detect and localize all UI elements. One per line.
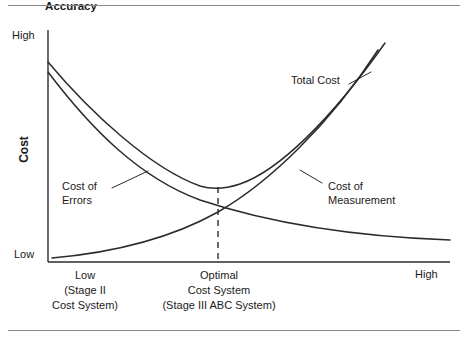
x-axis-high-label: High: [415, 268, 438, 281]
x-tick-low-line1: Low: [25, 268, 145, 283]
y-axis-high-label: High: [12, 29, 35, 42]
cost-of-errors-annotation: Cost of Errors: [62, 179, 97, 207]
cost-of-errors-annotation-line2: Errors: [62, 193, 97, 207]
cost-of-errors-curve: [48, 72, 450, 240]
x-tick-low-line2: (Stage II: [25, 283, 145, 298]
cost-of-errors-leader-line: [112, 171, 148, 188]
y-axis-title: Cost: [18, 120, 31, 180]
cost-of-measurement-annotation-line2: Measurement: [328, 193, 395, 207]
x-tick-optimal-line3: (Stage III ABC System): [148, 298, 290, 313]
total-cost-curve: [48, 43, 385, 188]
x-tick-optimal-line1: Optimal: [148, 268, 290, 283]
chart-figure: High Low Cost Low (Stage II Cost System)…: [0, 0, 468, 344]
cost-of-measurement-annotation-line1: Cost of: [328, 179, 395, 193]
total-cost-annotation: Total Cost: [291, 73, 340, 87]
y-axis-low-label: Low: [14, 248, 34, 261]
x-tick-group-low: Low (Stage II Cost System): [25, 268, 145, 313]
cost-of-measurement-leader-line: [300, 170, 322, 183]
cost-of-errors-annotation-line1: Cost of: [62, 179, 97, 193]
cost-of-measurement-annotation: Cost of Measurement: [328, 179, 395, 207]
x-tick-optimal-line2: Cost System: [148, 283, 290, 298]
x-tick-group-optimal: Optimal Cost System (Stage III ABC Syste…: [148, 268, 290, 313]
x-tick-low-line3: Cost System): [25, 298, 145, 313]
total-cost-leader-line: [349, 72, 371, 84]
